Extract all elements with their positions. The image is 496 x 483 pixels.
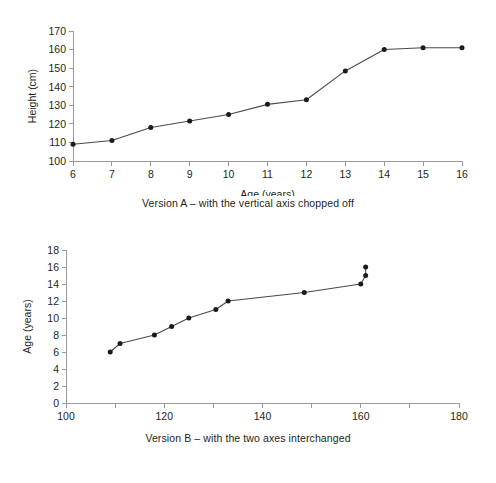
chart-a-plot-area: 100110120130140150160170 678910111213141…: [0, 0, 496, 196]
y-tick-label: 120: [48, 118, 66, 130]
y-tick-label: 0: [53, 397, 59, 409]
y-tick-label: 18: [47, 244, 59, 256]
data-point: [169, 324, 174, 329]
x-tick-label: 14: [378, 168, 390, 180]
figure-version-b: 024681012141618 100120140160180 Age (yea…: [0, 236, 496, 483]
x-tick-label: 120: [155, 410, 173, 422]
chart-b-data-line: [110, 267, 365, 352]
y-tick-label: 170: [48, 25, 66, 37]
y-tick-label: 12: [47, 295, 59, 307]
chart-b-canvas: 024681012141618 100120140160180 Age (yea…: [0, 236, 496, 431]
x-tick-label: 11: [262, 168, 273, 180]
caption-version-a: Version A – with the vertical axis chopp…: [0, 197, 496, 209]
data-point: [358, 282, 363, 287]
data-point: [363, 265, 368, 270]
data-point: [226, 112, 231, 117]
chart-b-plot-area: 024681012141618 100120140160180 Age (yea…: [0, 236, 496, 431]
data-point: [148, 125, 153, 130]
data-point: [71, 142, 76, 147]
data-point: [109, 138, 114, 143]
x-tick-label: 180: [450, 410, 468, 422]
figure-version-a: 100110120130140150160170 678910111213141…: [0, 0, 496, 225]
data-point: [304, 97, 309, 102]
chart-a-x-axis-title: Age (years): [240, 188, 294, 196]
y-tick-label: 150: [48, 62, 66, 74]
chart-b-y-axis-ticks: 024681012141618: [47, 244, 66, 409]
data-point: [186, 316, 191, 321]
chart-a-x-axis-ticks: 678910111213141516: [70, 161, 468, 180]
y-tick-label: 110: [49, 136, 66, 148]
chart-b-y-axis-title: Age (years): [21, 299, 33, 353]
x-tick-label: 16: [456, 168, 468, 180]
data-point: [382, 47, 387, 52]
y-tick-label: 140: [48, 81, 66, 93]
x-tick-label: 6: [70, 168, 76, 180]
x-tick-label: 13: [339, 168, 351, 180]
x-tick-label: 160: [352, 410, 370, 422]
x-tick-label: 7: [109, 168, 115, 180]
x-tick-label: 12: [301, 168, 313, 180]
data-point: [108, 350, 113, 355]
data-point: [421, 45, 426, 50]
y-tick-label: 14: [47, 278, 59, 290]
y-tick-label: 10: [47, 312, 59, 324]
y-tick-label: 4: [53, 363, 59, 375]
x-tick-label: 10: [223, 168, 235, 180]
chart-a-data-line: [73, 48, 462, 145]
chart-b-x-axis-title: Height (cm): [235, 430, 289, 431]
data-point: [226, 299, 231, 304]
chart-a-canvas: 100110120130140150160170 678910111213141…: [0, 0, 496, 196]
chart-a-y-axis-title: Height (cm): [26, 69, 38, 123]
x-tick-label: 9: [187, 168, 193, 180]
x-tick-label: 140: [254, 410, 272, 422]
x-tick-label: 8: [148, 168, 154, 180]
y-tick-label: 100: [48, 155, 66, 167]
y-tick-label: 2: [53, 380, 59, 392]
data-point: [152, 333, 157, 338]
y-tick-label: 160: [48, 43, 66, 55]
data-point: [265, 102, 270, 107]
data-point: [187, 119, 192, 124]
y-tick-label: 8: [53, 329, 59, 341]
x-tick-label: 15: [417, 168, 429, 180]
data-point: [213, 307, 218, 312]
y-tick-label: 130: [48, 99, 66, 111]
caption-version-b: Version B – with the two axes interchang…: [0, 432, 496, 444]
data-point: [460, 45, 465, 50]
data-point: [118, 341, 123, 346]
data-point: [343, 68, 348, 73]
y-tick-label: 16: [47, 261, 59, 273]
chart-b-x-axis-ticks: 100120140160180: [57, 403, 468, 422]
y-tick-label: 6: [53, 346, 59, 358]
x-tick-label: 100: [57, 410, 75, 422]
chart-b-data-points: [108, 265, 368, 355]
chart-a-y-axis-ticks: 100110120130140150160170: [48, 25, 73, 167]
chart-a-data-points: [71, 45, 465, 147]
data-point: [363, 273, 368, 278]
data-point: [302, 290, 307, 295]
